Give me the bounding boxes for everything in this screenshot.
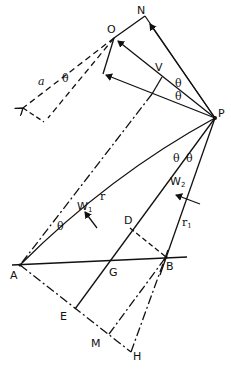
label-E: E xyxy=(60,310,67,323)
dashed-a-corner xyxy=(23,108,44,122)
label-theta-A: θ xyxy=(57,220,64,233)
point-P xyxy=(213,116,217,120)
label-theta-P-upper: θ xyxy=(175,77,182,90)
label-O: O xyxy=(107,23,116,36)
line-V-perp xyxy=(152,77,162,94)
geometry-diagram: N O V P A G B D E M H a θ θ θ θ θ θ r r1… xyxy=(0,0,231,372)
dashed-O-theta xyxy=(48,38,114,118)
label-G: G xyxy=(109,266,118,279)
label-r1: r1 xyxy=(182,216,192,230)
line-P-E xyxy=(75,118,215,309)
label-theta-P-left: θ xyxy=(173,152,180,165)
dashdot-H-B xyxy=(131,250,168,352)
label-theta-top-left: θ xyxy=(62,72,69,85)
label-B: B xyxy=(166,260,174,273)
point-B xyxy=(164,255,167,258)
label-N: N xyxy=(137,4,145,17)
line-P-B xyxy=(160,118,215,275)
arrow-P-O xyxy=(118,41,215,118)
label-theta-P-lower: θ xyxy=(175,90,182,103)
label-theta-P-right: θ xyxy=(186,152,193,165)
label-a: a xyxy=(38,75,45,88)
dashdot-M-B xyxy=(109,257,166,334)
line-N-O xyxy=(114,16,145,38)
line-P-A xyxy=(20,118,215,265)
label-W2: W2 xyxy=(170,175,185,189)
arrow-P-short xyxy=(106,75,215,118)
line-O-short xyxy=(103,38,114,74)
label-A: A xyxy=(10,269,18,282)
arrow-W1 xyxy=(85,212,97,228)
label-P: P xyxy=(218,107,225,120)
label-M: M xyxy=(91,337,101,350)
label-D: D xyxy=(124,214,132,227)
dashed-D-B xyxy=(130,228,166,257)
label-r: r xyxy=(100,190,106,203)
label-V: V xyxy=(155,61,163,74)
point-A xyxy=(18,263,21,266)
label-H: H xyxy=(133,350,141,363)
